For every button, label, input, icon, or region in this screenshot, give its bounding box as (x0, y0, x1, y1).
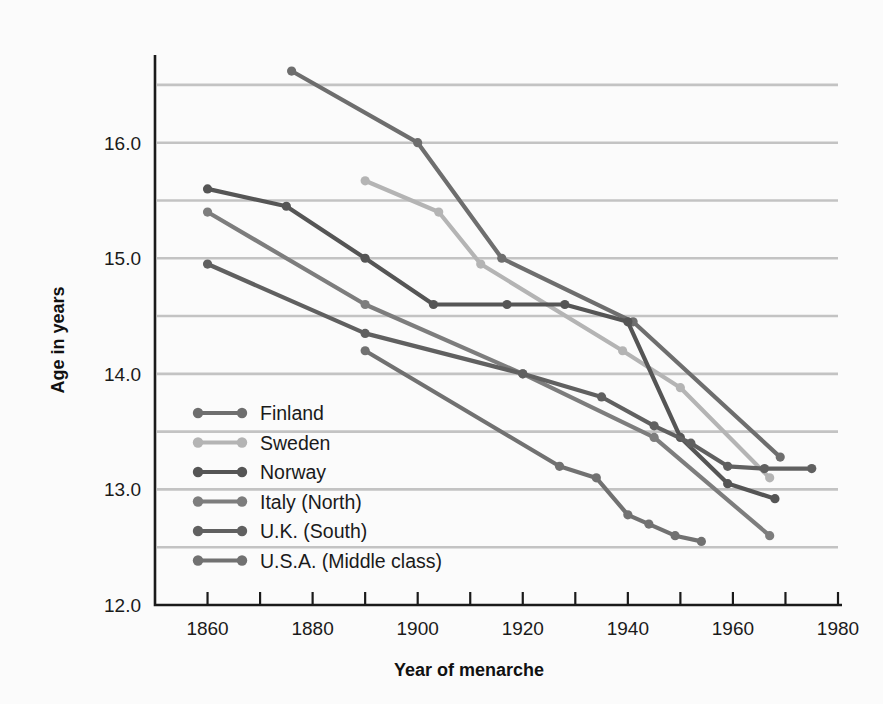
x-tick-label: 1980 (817, 618, 859, 639)
data-point-marker (502, 300, 511, 309)
x-tick-label: 1860 (186, 618, 228, 639)
data-point-marker (765, 531, 774, 540)
data-point-marker (770, 494, 779, 503)
y-tick-label: 13.0 (104, 479, 141, 500)
legend-item[interactable]: Finland (193, 402, 324, 424)
data-point-marker (592, 473, 601, 482)
y-tick-label: 15.0 (104, 248, 141, 269)
legend-swatch-marker-start (193, 467, 203, 477)
series-finland (287, 66, 785, 461)
data-point-marker (555, 462, 564, 471)
legend-swatch-marker-end (237, 526, 247, 536)
data-point-marker (413, 138, 422, 147)
data-point-marker (723, 462, 732, 471)
x-tick-label: 1960 (712, 618, 754, 639)
data-point-marker (282, 202, 291, 211)
y-axis-title: Age in years (48, 286, 68, 393)
legend-item[interactable]: Italy (North) (193, 491, 362, 513)
legend-item-label: U.K. (South) (260, 520, 367, 542)
data-point-marker (287, 66, 296, 75)
legend-swatch-marker-end (237, 437, 247, 447)
y-axis-tick-labels: 12.013.014.015.016.0 (104, 133, 141, 616)
data-point-marker (697, 537, 706, 546)
legend-item[interactable]: Sweden (193, 432, 331, 454)
data-point-marker (644, 519, 653, 528)
data-point-marker (361, 329, 370, 338)
chart-container: 12.013.014.015.016.0 1860188019001920194… (0, 0, 883, 704)
data-point-marker (686, 439, 695, 448)
data-point-marker (723, 479, 732, 488)
data-point-marker (429, 300, 438, 309)
data-point-marker (560, 300, 569, 309)
data-point-marker (671, 531, 680, 540)
line-chart: 12.013.014.015.016.0 1860188019001920194… (0, 0, 883, 704)
data-point-marker (361, 300, 370, 309)
data-point-marker (650, 421, 659, 430)
axis-ticks-group (208, 592, 838, 605)
x-axis-tick-labels: 1860188019001920194019601980 (186, 618, 859, 639)
data-point-marker (597, 392, 606, 401)
x-tick-label: 1920 (502, 618, 544, 639)
data-point-marker (760, 464, 769, 473)
legend-swatch-marker-start (193, 555, 203, 565)
legend-item-label: Sweden (260, 432, 330, 454)
legend-swatch-marker-end (237, 555, 247, 565)
legend-item-label: Italy (North) (260, 491, 362, 513)
data-point-marker (518, 369, 527, 378)
y-tick-label: 14.0 (104, 364, 141, 385)
data-point-marker (497, 254, 506, 263)
data-point-marker (476, 259, 485, 268)
legend-swatch-marker-start (193, 526, 203, 536)
data-point-marker (776, 452, 785, 461)
legend-swatch-marker-start (193, 437, 203, 447)
data-point-marker (650, 433, 659, 442)
x-tick-label: 1900 (397, 618, 439, 639)
legend-swatch-marker-end (237, 496, 247, 506)
legend-swatch-marker-start (193, 408, 203, 418)
y-tick-label: 16.0 (104, 133, 141, 154)
x-axis-title: Year of menarche (394, 660, 544, 680)
series-norway (203, 184, 780, 503)
y-tick-label: 12.0 (104, 595, 141, 616)
legend-swatch-marker-end (237, 408, 247, 418)
data-point-marker (676, 383, 685, 392)
legend-item[interactable]: U.S.A. (Middle class) (193, 550, 442, 572)
series-line (292, 71, 781, 457)
data-point-marker (618, 346, 627, 355)
x-tick-label: 1880 (291, 618, 333, 639)
legend-swatch-marker-start (193, 496, 203, 506)
legend-item-label: U.S.A. (Middle class) (260, 550, 442, 572)
data-point-marker (807, 464, 816, 473)
data-point-marker (434, 207, 443, 216)
axes-group (155, 55, 842, 605)
legend-item-label: Norway (260, 461, 326, 483)
data-point-marker (203, 184, 212, 193)
data-point-marker (203, 207, 212, 216)
legend-item-label: Finland (260, 402, 324, 424)
legend-item[interactable]: Norway (193, 461, 327, 483)
data-point-marker (623, 317, 632, 326)
data-point-marker (361, 176, 370, 185)
data-point-marker (361, 254, 370, 263)
legend-swatch-marker-end (237, 467, 247, 477)
data-point-marker (203, 259, 212, 268)
legend-item[interactable]: U.K. (South) (193, 520, 367, 542)
axis-frame (155, 55, 842, 605)
data-point-marker (765, 473, 774, 482)
x-tick-label: 1940 (607, 618, 649, 639)
data-point-marker (361, 346, 370, 355)
data-point-marker (623, 510, 632, 519)
